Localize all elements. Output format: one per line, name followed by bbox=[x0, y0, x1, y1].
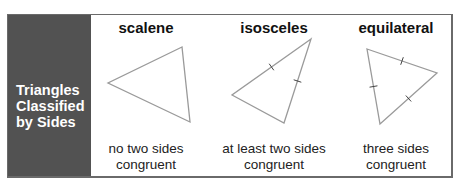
triangle-drawings bbox=[0, 0, 461, 188]
tick-mark bbox=[269, 64, 274, 71]
scalene-triangle bbox=[108, 47, 190, 122]
congruence-tick-marks bbox=[269, 57, 411, 101]
tick-mark bbox=[370, 86, 378, 87]
isosceles-triangle bbox=[232, 39, 311, 123]
